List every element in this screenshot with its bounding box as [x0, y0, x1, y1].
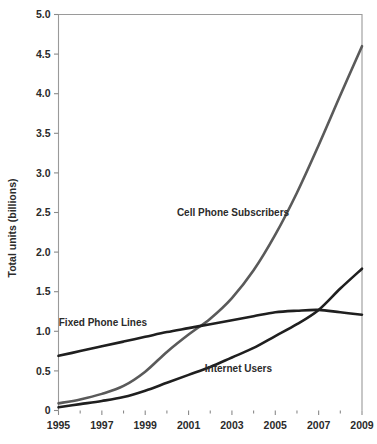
series-label-fixed-phone-lines: Fixed Phone Lines — [59, 317, 148, 328]
y-tick-label: 3.5 — [36, 127, 51, 139]
y-tick-label: 4.5 — [36, 48, 51, 60]
line-chart: 00.51.01.52.02.53.03.54.04.55.0 19951997… — [0, 0, 377, 444]
y-tick-label: 0.5 — [36, 365, 51, 377]
x-tick-label: 1997 — [90, 419, 114, 431]
y-axis-tick-labels: 00.51.01.52.02.53.03.54.04.55.0 — [36, 8, 51, 416]
x-tick-label: 1995 — [47, 419, 71, 431]
x-tick-label: 2007 — [307, 419, 331, 431]
chart-canvas: 00.51.01.52.02.53.03.54.04.55.0 19951997… — [0, 0, 377, 444]
y-tick-label: 1.5 — [36, 285, 51, 297]
x-axis-tick-labels: 19951997199920012003200520072009 — [47, 419, 374, 431]
y-tick-label: 5.0 — [36, 8, 51, 20]
x-tick-label: 2003 — [220, 419, 244, 431]
series-line-internet-users — [59, 269, 363, 408]
y-tick-label: 2.0 — [36, 246, 51, 258]
series-line-cell-phone-subscribers — [59, 46, 363, 403]
y-tick-label: 0 — [45, 404, 51, 416]
y-tick-label: 4.0 — [36, 87, 51, 99]
x-tick-label: 2001 — [177, 419, 201, 431]
x-axis-ticks — [59, 411, 363, 416]
y-tick-label: 1.0 — [36, 325, 51, 337]
y-axis-title: Total units (billions) — [6, 179, 18, 278]
x-tick-label: 2009 — [350, 419, 374, 431]
y-tick-label: 2.5 — [36, 206, 51, 218]
series-label-cell-phone-subscribers: Cell Phone Subscribers — [177, 207, 290, 218]
series-lines — [59, 46, 363, 407]
y-tick-label: 3.0 — [36, 167, 51, 179]
x-tick-label: 2005 — [264, 419, 288, 431]
series-label-internet-users: Internet Users — [205, 363, 273, 374]
x-tick-label: 1999 — [134, 419, 158, 431]
y-axis-ticks — [54, 15, 59, 411]
